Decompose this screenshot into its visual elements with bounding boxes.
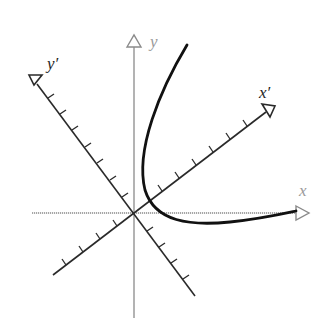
x-prime-axis-label: x′	[258, 83, 271, 102]
x-axis-label: x	[298, 181, 307, 200]
parabola-curve	[143, 45, 296, 223]
y-prime-axis-label: y′	[45, 54, 59, 73]
y-axis-arrowhead-icon	[127, 35, 141, 47]
x-prime-arrowhead-icon	[262, 104, 275, 117]
x-prime-axis	[53, 104, 275, 275]
x-prime-ticks	[62, 120, 247, 265]
rotated-axes-diagram: x y x′ y′	[0, 0, 320, 329]
y-axis-label: y	[148, 32, 158, 51]
y-prime-arrowhead-icon	[29, 75, 42, 85]
y-axis	[127, 35, 141, 318]
x-axis-arrowhead-icon	[296, 206, 309, 220]
